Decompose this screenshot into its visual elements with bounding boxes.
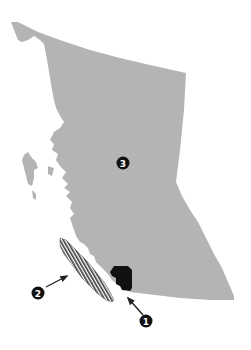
marker-2: 2: [32, 287, 45, 300]
marker-3: 3: [117, 157, 130, 170]
map-canvas: 3 2 1: [0, 0, 251, 350]
arrow-1: [128, 298, 143, 315]
marker-1: 1: [140, 315, 153, 328]
arrow-2: [46, 276, 67, 287]
island-small-2: [48, 166, 54, 176]
svg-text:2: 2: [35, 289, 41, 299]
island-north: [22, 152, 38, 186]
svg-text:1: 1: [143, 317, 149, 327]
island-small-1: [32, 190, 36, 200]
svg-text:3: 3: [120, 159, 126, 169]
